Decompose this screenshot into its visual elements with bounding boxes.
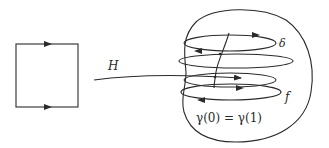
loop-top (184, 35, 276, 51)
homotopy-diagram: H δ f γ(0) = γ(1) (0, 0, 329, 148)
bottom-edge-arrow-icon (44, 104, 52, 110)
square-outline (16, 44, 78, 107)
path-point-icon (214, 76, 217, 79)
loop-label-f: f (284, 90, 292, 104)
loop-third (184, 73, 276, 87)
loop-bottom-arrow-right-icon (236, 85, 244, 91)
map-arrow-line (94, 75, 241, 80)
map-label-h: H (107, 59, 119, 73)
connecting-path (214, 33, 229, 88)
path-point-icon (219, 53, 222, 56)
loop-bottom (181, 84, 281, 100)
loop-label-delta: δ (279, 37, 286, 50)
endpoint-equation: γ(0) = γ(1) (196, 111, 262, 125)
square-domain (16, 41, 78, 110)
top-edge-arrow-icon (44, 41, 52, 47)
loop-second (179, 54, 293, 68)
